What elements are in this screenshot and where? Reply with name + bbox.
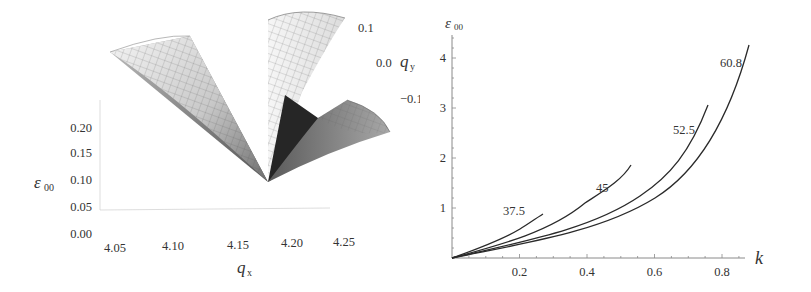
x-axis-ticks: 4.05 4.10 4.15 4.20 4.25 <box>104 235 355 255</box>
y-axis-label: q y <box>400 52 415 72</box>
z-tick: 0.20 <box>70 121 92 135</box>
z-tick: 0.05 <box>70 200 92 214</box>
y-tick: 0.1 <box>358 21 374 35</box>
curve-label: 52.5 <box>673 123 695 137</box>
x-axis-label: q x <box>237 258 252 278</box>
line-chart: 0.2 0.4 0.6 0.8 1 2 3 4 ε 00 k 37.5 45 5… <box>420 0 811 292</box>
x-tick: 4.20 <box>281 236 303 250</box>
x-tick: 4.05 <box>104 241 126 255</box>
curve-37.5 <box>452 214 543 258</box>
y-tick-marks <box>452 38 456 248</box>
y-tick: 1 <box>440 201 446 215</box>
x-tick-marks <box>469 254 739 258</box>
surface-plot-3d: 0.20 0.15 0.10 0.05 0.00 ε 00 4.05 4.10 … <box>0 0 420 292</box>
svg-text:x: x <box>247 267 252 278</box>
y-tick-labels: 1 2 3 4 <box>440 51 447 215</box>
curve-label: 37.5 <box>503 204 525 218</box>
x-tick: 4.25 <box>333 235 355 249</box>
y-tick: 3 <box>440 101 446 115</box>
y-tick: 2 <box>440 151 446 165</box>
z-axis-label: ε 00 <box>34 173 54 193</box>
svg-text:q: q <box>237 258 246 277</box>
z-axis-ticks: 0.20 0.15 0.10 0.05 0.00 <box>70 121 92 241</box>
svg-text:y: y <box>410 61 415 72</box>
y-axis-label: ε 00 <box>445 15 464 32</box>
x-tick: 0.6 <box>647 265 663 279</box>
z-tick: 0.10 <box>70 173 92 187</box>
svg-text:00: 00 <box>44 182 54 193</box>
x-tick: 0.4 <box>579 265 595 279</box>
curve-labels: 37.5 45 52.5 60.8 <box>503 56 742 218</box>
svg-text:00: 00 <box>454 22 464 32</box>
x-tick-labels: 0.2 0.4 0.6 0.8 <box>512 265 730 279</box>
z-tick: 0.15 <box>70 146 92 160</box>
y-tick: 0.0 <box>376 56 392 70</box>
curves <box>452 45 749 258</box>
curve-label: 45 <box>596 181 609 195</box>
surface-left-sheet <box>110 36 268 182</box>
svg-text:ε: ε <box>34 173 41 192</box>
x-axis-label: k <box>755 248 764 268</box>
y-tick: −0.1 <box>400 92 420 106</box>
x-tick: 4.15 <box>227 238 249 252</box>
curve-45 <box>452 165 631 258</box>
svg-text:ε: ε <box>445 15 451 31</box>
y-tick: 4 <box>440 51 447 65</box>
x-tick: 4.10 <box>162 239 184 253</box>
curve-52.5 <box>452 105 708 258</box>
x-tick: 0.8 <box>714 265 730 279</box>
z-tick: 0.00 <box>70 227 92 241</box>
x-tick: 0.2 <box>512 265 528 279</box>
curve-label: 60.8 <box>720 56 742 70</box>
axes <box>452 35 745 258</box>
svg-text:q: q <box>400 52 409 71</box>
curve-60.8 <box>452 45 749 258</box>
